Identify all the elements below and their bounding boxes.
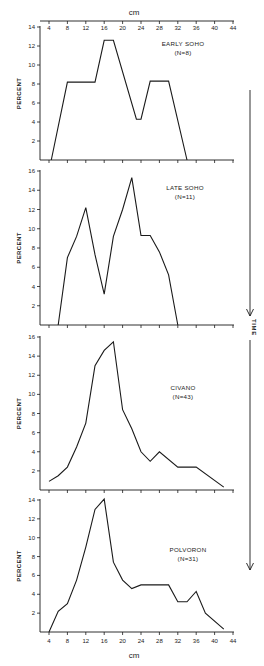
y-tick-label: 12: [28, 207, 35, 213]
x-tick-label: 8: [66, 638, 70, 644]
y-tick-label: 12: [28, 516, 35, 522]
y-tick-label: 4: [32, 449, 36, 455]
top-x-axis: cm 48121620242832364044: [40, 8, 237, 31]
chart-panel-civano: 246810121416PERCENTCIVANO(N=43): [16, 334, 234, 493]
y-tick-label: 2: [32, 303, 36, 309]
chart-panel-early-soho: 2468101214PERCENTEARLY SOHO(N=8): [16, 24, 234, 163]
x-tick-label: 24: [138, 25, 145, 31]
y-tick-label: 2: [32, 138, 36, 144]
y-tick-label: 12: [28, 372, 35, 378]
y-axis-title: PERCENT: [16, 232, 22, 263]
chart-panel-late-soho: 246810121416PERCENTLATE SOHO(N=11): [16, 168, 234, 328]
y-tick-label: 6: [32, 264, 36, 270]
y-tick-label: 4: [32, 591, 36, 597]
y-tick-label: 14: [28, 353, 35, 359]
y-tick-label: 8: [32, 554, 36, 560]
y-tick-label: 2: [32, 610, 36, 616]
data-series-line: [49, 342, 224, 487]
x-tick-label: 36: [193, 638, 200, 644]
top-x-axis-title: cm: [129, 8, 140, 17]
series-name-label: POLVORON: [169, 546, 206, 553]
x-tick-label: 4: [47, 638, 51, 644]
top-x-axis-ticks: 48121620242832364044: [47, 21, 237, 31]
x-tick-label: 20: [119, 638, 126, 644]
y-tick-label: 2: [32, 468, 36, 474]
x-tick-label: 32: [174, 638, 181, 644]
y-tick-label: 14: [28, 187, 35, 193]
x-tick-label: 16: [101, 25, 108, 31]
sample-size-label: (N=31): [178, 555, 199, 562]
y-tick-label: 10: [28, 391, 35, 397]
time-arrow-label: TIME: [251, 319, 257, 336]
y-tick-label: 12: [28, 43, 35, 49]
sample-size-label: (N=8): [174, 49, 191, 56]
y-tick-label: 14: [28, 497, 35, 503]
y-tick-label: 4: [32, 119, 36, 125]
y-tick-label: 6: [32, 430, 36, 436]
series-name-label: LATE SOHO: [166, 184, 204, 191]
y-tick-label: 4: [32, 284, 36, 290]
bottom-x-axis: 48121620242832364044 cm: [47, 638, 237, 660]
sample-size-label: (N=11): [175, 193, 195, 200]
y-tick-label: 6: [32, 100, 36, 106]
x-tick-label: 44: [230, 25, 237, 31]
y-tick-label: 8: [32, 81, 36, 87]
x-tick-label: 8: [66, 25, 70, 31]
series-name-label: CIVANO: [170, 384, 195, 391]
bottom-x-axis-ticks: 48121620242832364044: [47, 638, 237, 644]
x-tick-label: 40: [211, 25, 218, 31]
y-tick-label: 10: [28, 535, 35, 541]
y-tick-label: 16: [28, 168, 35, 174]
data-series-line: [51, 40, 187, 160]
x-tick-label: 32: [174, 25, 181, 31]
x-tick-label: 28: [156, 638, 163, 644]
x-tick-label: 16: [101, 638, 108, 644]
data-series-line: [58, 178, 178, 325]
x-tick-label: 4: [47, 25, 51, 31]
y-axis-title: PERCENT: [16, 550, 22, 581]
x-tick-label: 12: [82, 25, 89, 31]
stacked-line-charts-figure: cm 48121620242832364044 2468101214PERCEN…: [0, 0, 264, 666]
y-tick-label: 8: [32, 411, 36, 417]
sample-size-label: (N=43): [173, 393, 194, 400]
y-tick-label: 10: [28, 62, 35, 68]
data-series-line: [49, 499, 224, 632]
y-tick-label: 14: [28, 24, 35, 30]
y-tick-label: 10: [28, 226, 35, 232]
bottom-x-axis-title: cm: [129, 651, 140, 660]
x-tick-label: 44: [230, 638, 237, 644]
y-tick-label: 8: [32, 245, 36, 251]
y-axis-title: PERCENT: [16, 398, 22, 429]
y-tick-label: 16: [28, 334, 35, 340]
x-tick-label: 36: [193, 25, 200, 31]
time-arrow: TIME: [247, 90, 258, 570]
series-name-label: EARLY SOHO: [162, 40, 205, 47]
x-tick-label: 12: [82, 638, 89, 644]
x-tick-label: 20: [119, 25, 126, 31]
y-tick-label: 6: [32, 572, 36, 578]
x-tick-label: 28: [156, 25, 163, 31]
y-axis-title: PERCENT: [16, 78, 22, 109]
x-tick-label: 40: [211, 638, 218, 644]
x-tick-label: 24: [138, 638, 145, 644]
chart-panel-polvoron: 2468101214PERCENTPOLVORON(N=31): [16, 497, 234, 635]
